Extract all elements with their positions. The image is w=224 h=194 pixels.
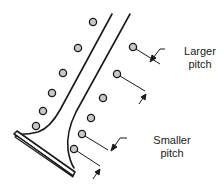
dot — [89, 18, 96, 25]
arrow-down-icon — [111, 144, 117, 151]
smaller-pitch-label-line2: pitch — [147, 147, 197, 160]
dot — [78, 130, 85, 137]
dot — [74, 44, 81, 51]
larger-pitch-label-line1: Larger — [177, 45, 223, 58]
larger-pitch-label: Larger pitch — [177, 45, 223, 71]
valve-pitch-diagram — [0, 0, 224, 194]
left-dots — [32, 18, 96, 129]
pitch-line-top2 — [120, 76, 145, 91]
dot — [70, 145, 77, 152]
right-dots — [70, 43, 136, 152]
valve-head-face — [15, 136, 73, 177]
pitch-line-bottom2 — [77, 151, 100, 166]
dot — [99, 94, 106, 101]
larger-pitch-label-line2: pitch — [177, 58, 223, 71]
valve-head — [14, 131, 75, 176]
smaller-pitch-label-line1: Smaller — [147, 134, 197, 147]
dot — [48, 89, 55, 96]
pitch-line-top — [136, 49, 160, 64]
smaller-pitch-label: Smaller pitch — [147, 134, 197, 160]
dot — [113, 70, 120, 77]
pitch-line-bottom — [85, 136, 108, 150]
dot — [32, 122, 39, 129]
dot — [87, 114, 94, 121]
dot — [59, 69, 66, 76]
dot — [129, 43, 136, 50]
dot — [39, 107, 46, 114]
